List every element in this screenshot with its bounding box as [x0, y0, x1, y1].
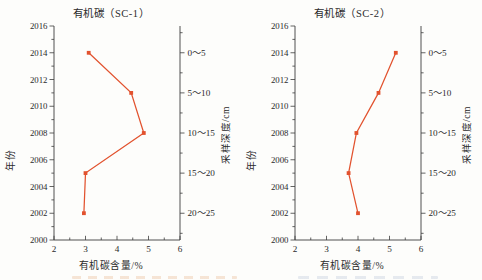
y-axis-tick-label: 2008	[271, 128, 289, 138]
y-axis-tick-label: 2002	[30, 208, 48, 218]
depth-label: 5～10	[429, 88, 452, 98]
x-axis-tick-label: 3	[83, 244, 88, 254]
y-axis-title-depth: 采样深度/cm	[459, 80, 471, 190]
chart-title: 有机碳（SC-2）	[241, 5, 463, 20]
y-axis-title-depth: 采样深度/cm	[218, 80, 230, 190]
y-axis-title-year: 年份	[3, 115, 15, 205]
y-axis-tick-label: 2016	[30, 21, 48, 31]
y-axis-tick-label: 2004	[271, 182, 289, 192]
y-axis-tick-label: 2010	[271, 101, 289, 111]
data-point-marker	[394, 51, 398, 55]
depth-label: 15～20	[429, 168, 457, 178]
x-axis-tick-label: 4	[115, 244, 120, 254]
depth-label: 0～5	[429, 48, 448, 58]
figure-canvas: 2000200220042006200820102012201420162345…	[0, 0, 482, 280]
data-point-marker	[355, 131, 359, 135]
y-axis-title-year: 年份	[244, 115, 256, 205]
data-point-marker	[87, 51, 91, 55]
data-point-marker	[377, 91, 381, 95]
chart-sc1: 2000200220042006200820102012201420162345…	[0, 0, 241, 280]
y-axis-tick-label: 2014	[30, 48, 48, 58]
x-axis-tick-label: 2	[52, 244, 57, 254]
y-axis-tick-label: 2012	[30, 75, 48, 85]
x-axis-tick-label: 6	[178, 244, 183, 254]
y-axis-tick-label: 2012	[271, 75, 289, 85]
x-axis-title: 有机碳含量/%	[0, 258, 222, 272]
y-axis-tick-label: 2006	[271, 155, 289, 165]
data-point-marker	[142, 131, 146, 135]
y-axis-tick-label: 2002	[271, 208, 289, 218]
data-point-marker	[82, 211, 86, 215]
series-line	[84, 53, 144, 214]
y-axis-tick-label: 2000	[271, 235, 289, 245]
x-axis-tick-label: 2	[293, 244, 298, 254]
depth-label: 15～20	[188, 168, 216, 178]
depth-label: 5～10	[188, 88, 211, 98]
x-axis-tick-label: 4	[356, 244, 361, 254]
y-axis-tick-label: 2004	[30, 182, 48, 192]
depth-label: 10～15	[188, 128, 216, 138]
depth-label: 10～15	[429, 128, 457, 138]
y-axis-tick-label: 2014	[271, 48, 289, 58]
y-axis-tick-label: 2000	[30, 235, 48, 245]
chart-sc1-plot: 2000200220042006200820102012201420162345…	[0, 0, 241, 280]
x-axis-tick-label: 3	[324, 244, 329, 254]
x-axis-tick-label: 6	[419, 244, 424, 254]
x-axis-tick-label: 5	[387, 244, 392, 254]
cropped-caption-remnant-left	[72, 276, 237, 279]
data-point-marker	[347, 171, 351, 175]
data-point-marker	[129, 91, 133, 95]
depth-label: 20～25	[188, 208, 216, 218]
chart-sc2-plot: 2000200220042006200820102012201420162345…	[241, 0, 482, 280]
cropped-caption-remnant-right	[298, 276, 438, 279]
x-axis-title: 有机碳含量/%	[241, 258, 463, 272]
y-axis-tick-label: 2008	[30, 128, 48, 138]
y-axis-tick-label: 2016	[271, 21, 289, 31]
data-point-marker	[84, 171, 88, 175]
data-point-marker	[356, 211, 360, 215]
chart-title: 有机碳（SC-1）	[0, 5, 222, 20]
y-axis-tick-label: 2010	[30, 101, 48, 111]
chart-sc2: 2000200220042006200820102012201420162345…	[241, 0, 482, 280]
depth-label: 0～5	[188, 48, 207, 58]
y-axis-tick-label: 2006	[30, 155, 48, 165]
depth-label: 20～25	[429, 208, 457, 218]
x-axis-tick-label: 5	[146, 244, 151, 254]
